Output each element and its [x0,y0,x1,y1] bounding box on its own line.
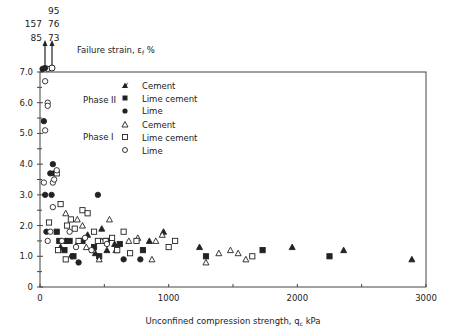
open-square-point [72,226,77,231]
filled-circle-point [76,260,81,265]
open-triangle-point [203,259,209,265]
open-circle-icon [123,148,128,153]
open-square-point [115,248,120,253]
open-triangle-point [79,223,85,229]
open-triangle-point [227,247,233,253]
open-triangle-point [63,210,69,216]
filled-triangle-point [146,238,152,244]
legend-entry: Lime [142,146,163,156]
open-triangle-point [216,250,222,256]
open-triangle-icon [122,122,128,128]
open-circle-point [54,168,59,173]
offscale-value: 73 [48,33,59,43]
open-square-point [68,217,73,222]
filled-circle-point [121,257,126,262]
filled-square-point [260,248,265,253]
filled-circle-point [138,257,143,262]
open-circle-point [50,204,55,209]
open-circle-point [73,244,78,249]
y-tick-label: 4.0 [19,159,33,169]
open-square-point [64,223,69,228]
open-triangle-point [243,256,249,262]
filled-square-point [327,254,332,259]
filled-circle-point [69,254,74,259]
y-tick-label: 1.0 [19,251,33,261]
scatter-chart: 01.02.03.04.05.06.07.0 0100020003000 157… [0,0,456,333]
open-circle-point [104,241,109,246]
open-square-point [95,238,100,243]
open-square-point [58,201,63,206]
open-circle-point [51,177,56,182]
open-circle-point [48,229,53,234]
open-circle-point [41,180,46,185]
legend-entry: Lime cement [142,133,198,143]
filled-square-point [62,248,67,253]
y-axis: 01.02.03.04.05.06.07.0 [19,67,43,292]
open-triangle-point [126,238,132,244]
open-square-point [46,220,51,225]
filled-triangle-point [341,247,347,253]
filled-triangle-point [409,256,415,262]
open-circle-point [82,235,87,240]
open-triangle-point [106,216,112,222]
open-square-point [80,208,85,213]
open-circle-point [89,247,94,252]
filled-circle-point [50,161,55,166]
open-triangle-point [149,256,155,262]
open-square-point [121,229,126,234]
open-circle-point [45,103,50,108]
open-square-point [91,229,96,234]
x-tick-label: 2000 [287,293,309,303]
x-axis-label: Unconfined compression strength, qc kPa [145,316,320,327]
open-circle-point [59,238,64,243]
open-circle-point [45,238,50,243]
open-triangle-point [153,238,159,244]
open-square-point [250,254,255,259]
open-triangle-point [235,250,241,256]
chart-title: Failure strain, εf % [77,45,155,56]
offscale-value: 76 [48,19,60,29]
legend-group-label: Phase I [83,132,114,142]
filled-square-point [203,254,208,259]
filled-triangle-point [289,244,295,250]
open-square-point [109,235,114,240]
filled-triangle-point [104,247,110,253]
filled-square-icon [123,96,128,101]
legend-group-label: Phase II [83,95,116,105]
offscale-value: 157 [25,19,42,29]
open-square-point [173,238,178,243]
filled-square-point [140,248,145,253]
filled-circle-point [95,192,100,197]
filled-triangle-point [99,226,105,232]
open-square-point [85,211,90,216]
y-tick-label: 6.0 [19,98,33,108]
open-circle-point [42,128,47,133]
open-square-icon [123,135,128,140]
y-tick-label: 3.0 [19,190,33,200]
x-tick-label: 0 [37,293,42,303]
filled-circle-point [41,118,46,123]
offscale-value: 95 [48,6,59,16]
y-tick-label: 2.0 [19,221,33,231]
filled-circle-icon [122,108,127,113]
offscale-value: 85 [31,33,42,43]
filled-triangle-point [197,244,203,250]
open-square-point [166,244,171,249]
legend: Phase II Phase I Cement Lime cement Lime… [83,81,198,156]
y-tick-label: 7.0 [19,67,33,77]
legend-entry: Cement [142,120,176,130]
open-square-point [76,238,81,243]
open-square-point [127,251,132,256]
open-square-point [63,257,68,262]
y-tick-label: 5.0 [19,128,33,138]
open-circle-point [42,79,47,84]
x-tick-label: 3000 [415,293,437,303]
filled-circle-point [42,192,47,197]
legend-entry: Cement [142,81,176,91]
open-triangle-point [83,244,89,250]
x-tick-label: 1000 [158,293,180,303]
open-triangle-point [74,216,80,222]
open-square-point [134,238,139,243]
filled-square-point [54,229,59,234]
open-square-point [55,248,60,253]
